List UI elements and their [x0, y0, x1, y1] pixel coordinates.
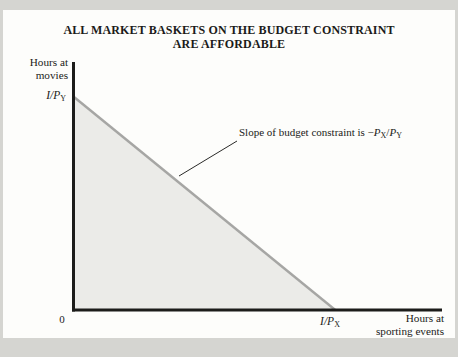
figure-title-line2: ARE AFFORDABLE	[0, 38, 458, 52]
y-axis-label-line2: movies	[0, 69, 68, 82]
x-axis-label: Hours at sporting events	[324, 312, 444, 338]
y-axis-label-line1: Hours at	[0, 56, 68, 69]
slope-annotation: Slope of budget constraint is −PX/PY	[239, 126, 402, 138]
x-axis-label-line1: Hours at	[324, 312, 444, 325]
y-intercept-symbol: I/P	[46, 89, 60, 101]
slope-sub-y: Y	[396, 131, 402, 140]
y-intercept-subscript: Y	[60, 94, 66, 103]
figure-title-line1: ALL MARKET BASKETS ON THE BUDGET CONSTRA…	[0, 24, 458, 38]
y-intercept-label: I/PY	[0, 89, 66, 101]
figure-title: ALL MARKET BASKETS ON THE BUDGET CONSTRA…	[0, 24, 458, 51]
plot-area	[0, 0, 458, 357]
y-axis-label: Hours at movies	[0, 56, 68, 82]
annotation-leader-line	[179, 141, 237, 176]
budget-constraint-figure: ALL MARKET BASKETS ON THE BUDGET CONSTRA…	[0, 0, 458, 357]
slope-var-px: P	[374, 126, 381, 138]
slope-annotation-text: Slope of budget constraint is −	[239, 126, 374, 138]
origin-label: 0	[54, 313, 70, 325]
x-axis-label-line2: sporting events	[324, 325, 444, 338]
